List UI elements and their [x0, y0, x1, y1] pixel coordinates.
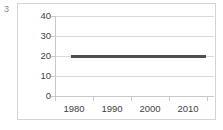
y-axis-label-0: 0	[23, 91, 51, 101]
plot-area: 40 30 20 10 0 1980 1990 2000 2010	[18, 4, 217, 121]
x-axis-spine	[55, 96, 214, 97]
figure-index-label: 3	[4, 4, 9, 14]
gridline-10	[56, 76, 214, 77]
x-axis-label-1990: 1990	[92, 103, 132, 114]
y-tick-10	[51, 76, 56, 77]
x-axis-label-2010: 2010	[168, 103, 208, 114]
y-tick-20	[51, 56, 56, 57]
y-tick-30	[51, 36, 56, 37]
x-axis-label-2000: 2000	[130, 103, 170, 114]
x-tick-2010	[207, 97, 208, 101]
gridline-40	[56, 16, 214, 17]
y-axis-label-30: 30	[23, 31, 51, 41]
x-tick-start	[55, 97, 56, 101]
y-tick-40	[51, 16, 56, 17]
y-axis-label-10: 10	[23, 71, 51, 81]
y-axis-label-20: 20	[23, 51, 51, 61]
chart-figure: 3 40 30 20 10 0	[0, 0, 223, 130]
x-axis-label-1980: 1980	[54, 103, 94, 114]
y-axis-label-40: 40	[23, 11, 51, 21]
x-tick-1980	[93, 97, 94, 101]
chart-frame: 40 30 20 10 0 1980 1990 2000 2010	[17, 3, 216, 120]
series-line-flat	[71, 55, 206, 58]
x-tick-1990	[131, 97, 132, 101]
gridline-30	[56, 36, 214, 37]
x-tick-2000	[169, 97, 170, 101]
